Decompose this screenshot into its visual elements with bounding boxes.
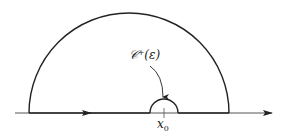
small-arc-label: 𝒞⁺(ε): [129, 48, 160, 62]
x0-label: x0: [157, 117, 169, 133]
pointer-arrow-icon: [150, 66, 163, 97]
contour-diagram: 𝒞⁺(ε) x0: [0, 0, 284, 133]
large-semicircle-arc: [29, 13, 229, 113]
x0-label-subscript: 0: [164, 124, 169, 133]
